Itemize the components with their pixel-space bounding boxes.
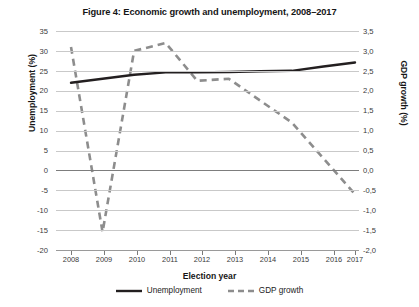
y-left-ticklabel: -10 — [18, 206, 48, 215]
y-left-axis-title: Unemployment (%) — [27, 23, 37, 163]
zero-gridline — [56, 170, 359, 171]
gridline — [56, 111, 359, 112]
y-right-ticklabel: 2,5 — [363, 67, 395, 76]
gridline — [56, 71, 359, 72]
y-right-ticklabel: -1,5 — [363, 226, 395, 235]
x-axis-line — [56, 250, 359, 251]
y-right-ticklabel: 0,0 — [363, 166, 395, 175]
series-lines — [56, 31, 359, 250]
y-right-ticklabel: 3,0 — [363, 47, 395, 56]
legend-label-unemployment: Unemployment — [147, 286, 202, 295]
legend: Unemployment GDP growth — [0, 286, 419, 295]
y-right-ticklabel: -1,0 — [363, 206, 395, 215]
x-ticklabel: 2011 — [152, 255, 188, 264]
y-left-ticklabel: 0 — [18, 166, 48, 175]
y-right-ticklabel: 2,0 — [363, 86, 395, 95]
x-ticklabel: 2017 — [337, 255, 373, 264]
plot-area — [56, 31, 359, 250]
y-right-ticklabel: 1,0 — [363, 126, 395, 135]
x-ticklabel: 2010 — [119, 255, 155, 264]
x-ticklabel: 2014 — [250, 255, 286, 264]
gridline — [56, 31, 359, 32]
y-right-axis-title: GDP growth (%) — [399, 23, 409, 163]
y-left-ticklabel: -5 — [18, 186, 48, 195]
legend-label-gdp-growth: GDP growth — [259, 286, 303, 295]
y-right-ticklabel: 3,5 — [363, 27, 395, 36]
y-right-ticklabel: -2,0 — [363, 246, 395, 255]
x-ticklabel: 2012 — [184, 255, 220, 264]
x-ticklabel: 2009 — [86, 255, 122, 264]
gridline — [56, 51, 359, 52]
x-ticklabel: 2015 — [283, 255, 319, 264]
figure-economic-growth-unemployment: Figure 4: Economic growth and unemployme… — [0, 0, 419, 307]
figure-title: Figure 4: Economic growth and unemployme… — [0, 7, 419, 17]
y-right-ticklabel: 0,5 — [363, 146, 395, 155]
gridline — [56, 131, 359, 132]
gridline — [56, 151, 359, 152]
gridline — [56, 230, 359, 231]
y-left-ticklabel: -20 — [18, 246, 48, 255]
y-right-ticklabel: 1,5 — [363, 106, 395, 115]
gridline — [56, 190, 359, 191]
legend-item-unemployment: Unemployment — [116, 286, 202, 295]
legend-swatch-dashed — [228, 287, 254, 295]
legend-swatch-solid — [116, 287, 142, 295]
x-ticklabel: 2008 — [53, 255, 89, 264]
x-ticklabel: 2013 — [217, 255, 253, 264]
x-axis-title: Election year — [0, 271, 419, 281]
y-left-ticklabel: -15 — [18, 226, 48, 235]
gridline — [56, 210, 359, 211]
gridline — [56, 91, 359, 92]
y-right-ticklabel: -0,5 — [363, 186, 395, 195]
legend-item-gdp-growth: GDP growth — [228, 286, 303, 295]
